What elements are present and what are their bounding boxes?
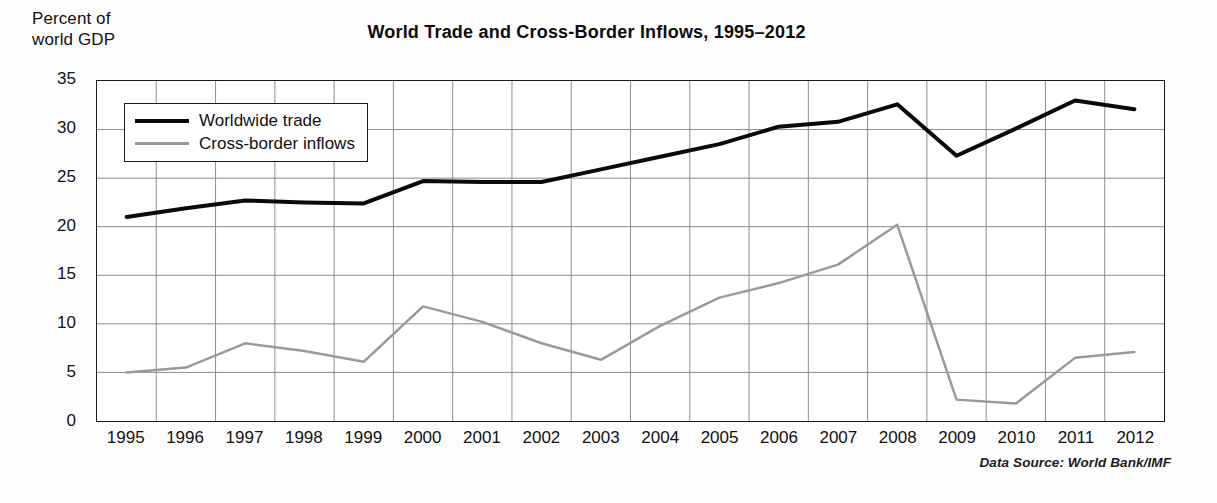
- legend-entry: Worldwide trade: [135, 109, 355, 132]
- legend-label: Worldwide trade: [199, 111, 322, 130]
- legend-label: Cross-border inflows: [199, 134, 355, 153]
- y-tick-label: 0: [38, 411, 76, 431]
- x-tick-label: 2004: [627, 428, 693, 448]
- y-tick-label: 30: [38, 118, 76, 138]
- legend-entry: Cross-border inflows: [135, 132, 355, 155]
- x-tick-label: 1998: [271, 428, 337, 448]
- y-tick-label: 15: [38, 264, 76, 284]
- x-tick-label: 2003: [568, 428, 634, 448]
- chart-legend: Worldwide tradeCross-border inflows: [124, 103, 368, 162]
- x-tick-label: 2009: [924, 428, 990, 448]
- chart-figure: Percent of world GDP World Trade and Cro…: [0, 0, 1217, 503]
- x-tick-label: 2001: [449, 428, 515, 448]
- y-tick-label: 5: [38, 362, 76, 382]
- x-tick-label: 2005: [687, 428, 753, 448]
- x-tick-label: 2012: [1102, 428, 1168, 448]
- legend-line-swatch-icon: [135, 114, 189, 128]
- chart-title: World Trade and Cross-Border Inflows, 19…: [0, 22, 1217, 43]
- y-tick-label: 25: [38, 167, 76, 187]
- y-tick-label: 20: [38, 216, 76, 236]
- x-tick-label: 2002: [508, 428, 574, 448]
- x-tick-label: 1995: [93, 428, 159, 448]
- legend-line-swatch-icon: [135, 137, 189, 151]
- x-tick-label: 2008: [865, 428, 931, 448]
- y-tick-label: 10: [38, 313, 76, 333]
- x-tick-label: 1996: [152, 428, 218, 448]
- x-tick-label: 2000: [390, 428, 456, 448]
- data-source-note: Data Source: World Bank/IMF: [980, 455, 1171, 470]
- chart-title-text: World Trade and Cross-Border Inflows, 19…: [367, 22, 805, 43]
- x-tick-label: 2010: [984, 428, 1050, 448]
- x-tick-label: 2006: [746, 428, 812, 448]
- x-tick-label: 2011: [1043, 428, 1109, 448]
- x-tick-label: 2007: [805, 428, 871, 448]
- x-tick-label: 1999: [330, 428, 396, 448]
- x-tick-label: 1997: [211, 428, 277, 448]
- y-tick-label: 35: [38, 69, 76, 89]
